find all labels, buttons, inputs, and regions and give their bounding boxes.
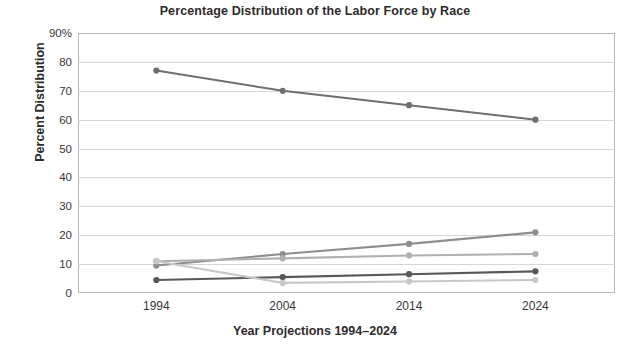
y-tick-label: 50 (30, 143, 72, 155)
data-point (280, 280, 286, 286)
data-point (406, 241, 412, 247)
data-point (532, 229, 538, 235)
plot-area (78, 33, 615, 293)
chart-title: Percentage Distribution of the Labor For… (0, 4, 630, 18)
x-axis-title: Year Projections 1994–2024 (0, 324, 630, 338)
data-point (280, 274, 286, 280)
series-line (156, 271, 535, 280)
data-point (406, 278, 412, 284)
data-point (532, 117, 538, 123)
data-point (153, 258, 159, 264)
data-point (406, 102, 412, 108)
series-line (156, 254, 535, 261)
y-axis-tick-labels: 90%80706050403020100 (20, 0, 72, 362)
series-series-1-declining-top (153, 67, 538, 122)
x-tick-label: 2004 (248, 299, 318, 313)
chart-container: Percentage Distribution of the Labor For… (0, 0, 630, 362)
series-series-3-light-gray (153, 251, 538, 264)
y-tick-label: 0 (30, 287, 72, 299)
y-tick-label: 30 (30, 200, 72, 212)
data-point (406, 271, 412, 277)
y-tick-label: 10 (30, 258, 72, 270)
data-point (532, 268, 538, 274)
data-point (153, 277, 159, 283)
y-tick-label: 70 (30, 85, 72, 97)
series-line (156, 71, 535, 120)
y-tick-label: 60 (30, 114, 72, 126)
series-layer (78, 33, 615, 293)
data-point (532, 251, 538, 257)
x-tick-label: 2014 (374, 299, 444, 313)
y-tick-label: 40 (30, 171, 72, 183)
data-point (406, 252, 412, 258)
x-tick-label: 2024 (500, 299, 570, 313)
data-point (280, 255, 286, 261)
data-point (153, 67, 159, 73)
data-point (280, 88, 286, 94)
y-tick-label: 80 (30, 56, 72, 68)
x-tick-label: 1994 (121, 299, 191, 313)
data-point (532, 277, 538, 283)
y-tick-label: 20 (30, 229, 72, 241)
series-series-2-rising (153, 229, 538, 268)
y-tick-label: 90% (30, 27, 72, 39)
